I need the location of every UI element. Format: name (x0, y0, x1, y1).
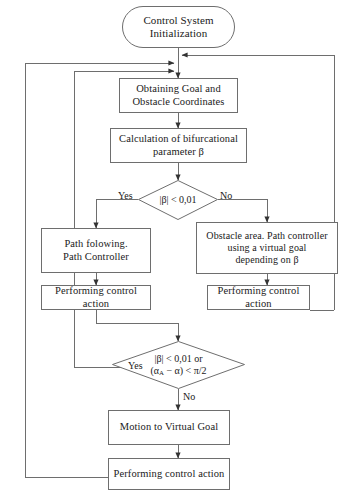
flowchart-canvas: Control System Initialization Obtaining … (0, 0, 357, 502)
node-performing-control-action-left[interactable]: Performing control action (41, 285, 151, 310)
node-calculation-of-bifurcational-parameter[interactable]: Calculation of bifurcational parameter β (110, 128, 247, 163)
node-label: Control System Initialization (140, 14, 216, 40)
node-line-1: Obstacle area. Path controller (206, 230, 327, 241)
edge-label-decision1-no: No (220, 191, 232, 201)
node-line-2: parameter β (153, 146, 204, 157)
edge-label-decision2-no: No (183, 392, 195, 402)
node-label: Obstacle area. Path controller using a v… (203, 230, 330, 265)
node-motion-to-virtual-goal[interactable]: Motion to Virtual Goal (108, 410, 230, 445)
node-line-1: Obtaining Goal and (136, 83, 221, 94)
edge-label-decision1-yes: Yes (118, 191, 133, 201)
node-label: Motion to Virtual Goal (117, 421, 222, 433)
node-label: Performing control action (111, 468, 228, 480)
decision-diamond-shape (139, 181, 218, 220)
node-line-2: Obstacle Coordinates (132, 96, 224, 107)
node-label: Calculation of bifurcational parameter β (116, 133, 241, 158)
node-line-1: Calculation of bifurcational (119, 133, 238, 144)
node-line-2: using a virtual goal (228, 242, 307, 253)
node-label: Obtaining Goal and Obstacle Coordinates (129, 83, 227, 108)
node-line-2: Path Controller (63, 251, 129, 262)
node-label: Performing control action (42, 285, 150, 310)
node-line-3: depending on β (235, 254, 298, 265)
node-obtaining-goal-and-obstacle-coordinates[interactable]: Obtaining Goal and Obstacle Coordinates (119, 78, 238, 113)
node-performing-control-action-right[interactable]: Performing control action (207, 285, 310, 310)
node-line-2: Initialization (150, 27, 208, 39)
node-decision-beta-less-than-001[interactable]: |β| < 0,01 (138, 180, 218, 220)
node-obstacle-area-path-controller[interactable]: Obstacle area. Path controller using a v… (196, 222, 338, 274)
node-label: Path folowing. Path Controller (60, 238, 132, 263)
node-control-system-initialization[interactable]: Control System Initialization (122, 6, 235, 48)
node-line-1: Path folowing. (64, 238, 127, 249)
node-label: Performing control action (208, 285, 309, 310)
node-performing-control-action-bottom[interactable]: Performing control action (108, 458, 230, 490)
node-line-1: Control System (143, 14, 213, 26)
edge-label-decision2-yes: Yes (128, 361, 143, 371)
node-path-following-path-controller[interactable]: Path folowing. Path Controller (41, 228, 151, 273)
